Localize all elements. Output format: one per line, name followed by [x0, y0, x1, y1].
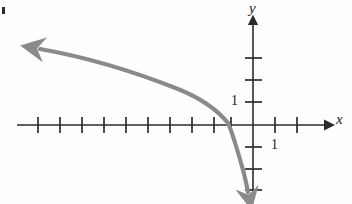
coordinate-plane — [0, 0, 352, 204]
x-tick-label-one: 1 — [271, 138, 278, 152]
y-axis — [245, 24, 262, 196]
y-tick-label-one: 1 — [231, 94, 238, 108]
x-axis — [17, 117, 325, 133]
x-axis-label: x — [336, 112, 343, 127]
y-axis-label: y — [249, 1, 256, 16]
curve-series — [40, 49, 248, 192]
curve-upper-branch — [40, 49, 228, 123]
curve-lower-branch — [228, 123, 248, 192]
graph-figure: y x 1 1 — [0, 0, 352, 204]
